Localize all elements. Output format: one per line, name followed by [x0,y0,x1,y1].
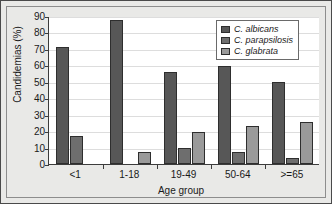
legend-swatch-icon [221,48,230,55]
bar-group [49,17,103,164]
x-tick-label: 19-49 [156,169,210,180]
bar [272,82,285,164]
legend-item: C. glabrata [221,46,293,56]
bar [286,158,299,164]
y-tick-label: 20 [1,126,45,137]
legend-label: C. albicans [234,24,279,34]
bar [218,66,231,164]
bar [192,132,205,164]
legend-label: C. glabrata [234,46,278,56]
bar [164,72,177,164]
y-tick-label: 70 [1,44,45,55]
x-axis-tick-labels: <11-1819-4950-64>=65 [48,169,319,180]
bar [300,122,313,164]
bar [56,47,69,164]
y-tick-mark [45,165,49,166]
bar [138,152,151,164]
bar [178,148,191,164]
chart-figure: Candidemias (%) Age group 01020304050607… [0,0,332,204]
legend-item: C. albicans [221,24,293,34]
y-tick-label: 40 [1,93,45,104]
bar-group [157,17,211,164]
y-tick-label: 80 [1,27,45,38]
chart-legend: C. albicansC. parapsilosisC. glabrata [216,20,299,60]
x-tick-label: <1 [48,169,102,180]
x-tick-label: >=65 [265,169,319,180]
y-tick-label: 0 [1,159,45,170]
x-tick-label: 1-18 [102,169,156,180]
legend-item: C. parapsilosis [221,35,293,45]
bar-group [103,17,157,164]
x-tick-label: 50-64 [211,169,265,180]
y-tick-label: 60 [1,60,45,71]
x-axis-title: Age group [46,185,316,196]
bar [232,152,245,164]
legend-swatch-icon [221,37,230,44]
y-tick-label: 30 [1,110,45,121]
y-tick-label: 90 [1,11,45,22]
y-tick-label: 10 [1,143,45,154]
legend-swatch-icon [221,26,230,33]
bar [110,20,123,164]
legend-label: C. parapsilosis [234,35,293,45]
bar [246,126,259,164]
bar [70,136,83,164]
y-tick-label: 50 [1,77,45,88]
